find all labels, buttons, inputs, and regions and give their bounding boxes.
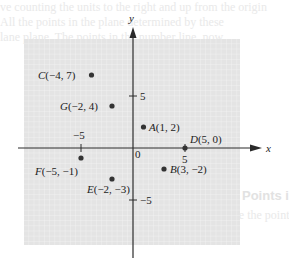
svg-text:E(−2, −3): E(−2, −3): [86, 183, 130, 196]
point-b-coords: (3, −2): [177, 163, 207, 176]
svg-text:A(1, 2): A(1, 2): [148, 121, 180, 134]
point-d-coords: (5, 0): [198, 133, 222, 146]
svg-text:F(−5, −1): F(−5, −1): [34, 165, 78, 178]
x-axis-arrow-icon: [250, 145, 262, 152]
svg-text:B(3, −2): B(3, −2): [170, 163, 207, 176]
point-f-coords: (−5, −1): [42, 165, 79, 178]
point-e-coords: (−2, −3): [94, 183, 131, 196]
origin-label: 0: [135, 148, 141, 160]
svg-text:G(−2, 4): G(−2, 4): [60, 100, 98, 113]
y-axis-label: y: [128, 12, 134, 24]
x-axis-label: x: [265, 142, 271, 154]
point-a-coords: (1, 2): [156, 121, 180, 134]
point-g-coords: (−2, 4): [68, 100, 98, 113]
y-axis-arrow-icon: [130, 27, 137, 38]
point-d-name: D: [189, 133, 198, 145]
y-tick-label-5: 5: [140, 90, 146, 102]
point-c-coords: (−4, 7): [45, 69, 75, 82]
coordinate-plane: x y −5 5 5 −5 0 A(1, 2) B(3, −2) C(−4, 7…: [0, 0, 289, 267]
point-g-name: G: [60, 100, 68, 112]
svg-text:D(5, 0): D(5, 0): [189, 133, 222, 146]
svg-text:C(−4, 7): C(−4, 7): [38, 69, 76, 82]
x-tick-label-neg5: −5: [73, 129, 85, 141]
y-tick-label-neg5: −5: [140, 194, 152, 206]
